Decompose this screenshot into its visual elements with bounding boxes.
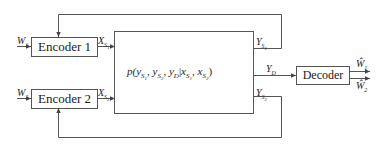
w1-sub: 1 xyxy=(25,42,28,48)
w2-hat-sub: 2 xyxy=(364,87,367,93)
decoder-label: Decoder xyxy=(303,68,344,83)
w2-hat-label: Ŵ2 xyxy=(356,81,367,93)
encoder-2-block: Encoder 2 xyxy=(31,89,98,109)
w1-hat-label: Ŵ1 xyxy=(356,59,367,71)
decoder-block: Decoder xyxy=(296,66,350,85)
formula-p: p( xyxy=(127,65,136,77)
xs2-label: XS2 xyxy=(98,88,110,102)
encoder-1-label: Encoder 1 xyxy=(38,39,91,55)
ys1-label: YS1 xyxy=(256,37,267,51)
w1-hat-sub: 1 xyxy=(364,65,367,71)
w2-sub: 2 xyxy=(25,94,28,100)
formula-sub-4: 2 xyxy=(206,77,209,82)
ys2-subsub: 2 xyxy=(265,97,268,102)
ys1-subsub: 1 xyxy=(265,46,268,51)
xs1-subsub: 1 xyxy=(107,45,110,50)
yd-sub: D xyxy=(272,70,276,76)
channel-formula: p(yS1, yS2, yD|xS1, xS2) xyxy=(127,65,212,82)
formula-close: ) xyxy=(208,65,212,77)
formula-sub-2: 2 xyxy=(161,77,164,82)
xs2-subsub: 2 xyxy=(107,97,110,102)
ys2-label: YS2 xyxy=(256,88,267,102)
formula-sub-1: 1 xyxy=(145,77,148,82)
formula-sub-3: 1 xyxy=(190,77,193,82)
w2-input-label: W2 xyxy=(17,88,28,100)
xs1-label: XS1 xyxy=(98,36,110,50)
encoder-2-label: Encoder 2 xyxy=(38,91,91,107)
yd-label: YD xyxy=(266,64,276,76)
encoder-1-block: Encoder 1 xyxy=(31,37,98,57)
w1-input-label: W1 xyxy=(17,36,28,48)
